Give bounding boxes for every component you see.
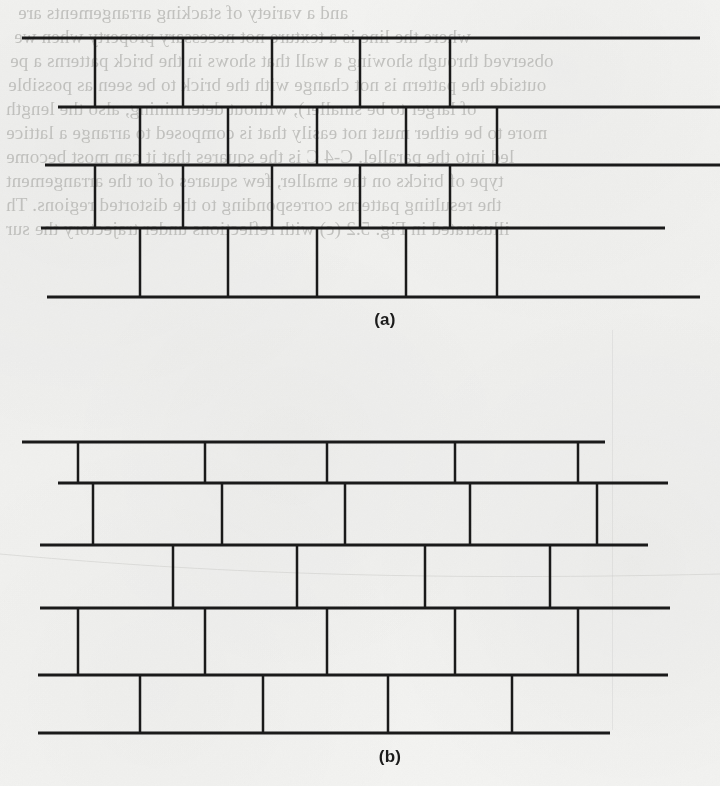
figure-caption-a: (a) — [345, 310, 425, 330]
figure-caption-b: (b) — [350, 747, 430, 767]
brick-lines-a — [22, 38, 720, 297]
brick-lines-b — [22, 442, 670, 733]
scanned-page: and a variety of stacking arrangements a… — [0, 0, 720, 786]
brick-wall-diagram-a — [0, 0, 720, 330]
brick-wall-diagram-b — [0, 400, 720, 786]
